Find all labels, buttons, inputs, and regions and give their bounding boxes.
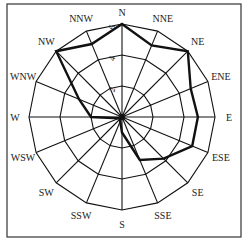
direction-label-sse: SSE: [154, 210, 171, 221]
direction-label-sw: SW: [39, 187, 55, 198]
direction-label-w: W: [10, 112, 20, 123]
direction-label-se: SE: [192, 187, 204, 198]
direction-label-ne: NE: [191, 36, 204, 47]
direction-label-s: S: [119, 219, 125, 230]
direction-label-nne: NNE: [153, 13, 174, 24]
center-hub: [119, 114, 125, 120]
direction-label-nnw: NNW: [69, 13, 93, 24]
direction-label-ene: ENE: [211, 71, 230, 82]
direction-label-wnw: WNW: [10, 71, 37, 82]
wind-rose-chart: 246 NNNENEENEEESESESSESSSWSWWSWWWNWNWNNW: [0, 0, 244, 242]
direction-label-wsw: WSW: [11, 152, 36, 163]
direction-label-n: N: [118, 7, 125, 18]
direction-label-e: E: [226, 112, 232, 123]
direction-label-ese: ESE: [212, 152, 230, 163]
direction-label-ssw: SSW: [71, 210, 92, 221]
spoke-sw: [56, 117, 122, 183]
direction-label-nw: NW: [38, 36, 55, 47]
spoke-ne: [122, 51, 188, 117]
